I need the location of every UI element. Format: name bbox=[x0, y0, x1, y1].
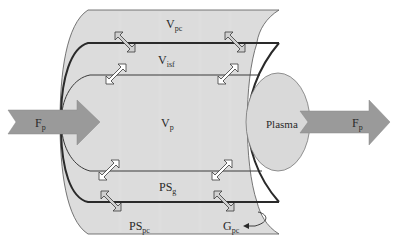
compartment-diagram: Vpc Visf Vp PSg PSpc Gpc Plasma Fp Fp bbox=[0, 0, 398, 244]
flow-out-arrow bbox=[300, 100, 390, 145]
label-plasma: Plasma bbox=[266, 118, 298, 130]
